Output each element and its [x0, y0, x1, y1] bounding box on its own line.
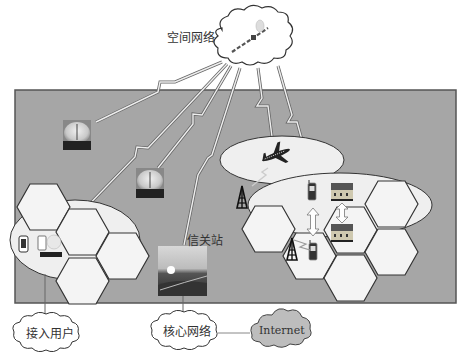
building-icon: [331, 183, 353, 201]
gateway-photo: [158, 246, 207, 296]
phone-icon: [308, 180, 316, 200]
laptop-icon: [38, 235, 62, 257]
phone-icon: [19, 236, 28, 252]
space-network-cloud: [214, 5, 293, 65]
core-network-label: 核心网络: [163, 322, 211, 339]
building-icon: [331, 224, 353, 242]
satellite-dish-icon: [136, 168, 164, 198]
phone-icon: [309, 240, 317, 260]
internet-label: Internet: [259, 324, 305, 337]
satellite-dish-icon: [63, 120, 91, 150]
network-diagram: [0, 0, 462, 362]
access-users-label: 接入用户: [26, 324, 74, 341]
space-network-label: 空间网络: [167, 28, 215, 45]
gateway-label: 信关站: [187, 231, 223, 248]
